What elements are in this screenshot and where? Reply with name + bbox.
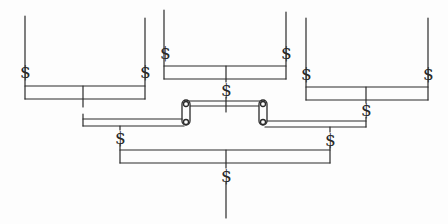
top-left-bracket: $ $ <box>20 16 151 107</box>
scroll-left-icon <box>182 100 190 125</box>
mid-left-bracket: $ <box>83 114 184 163</box>
mid-right-bracket: $ <box>265 117 366 163</box>
top-right-bracket: $ $ $ <box>301 18 434 120</box>
root-bracket: $ <box>120 150 330 218</box>
dollar-sign-icon: $ <box>423 64 434 84</box>
dollar-sign-icon: $ <box>301 64 312 84</box>
scroll-right-icon <box>259 100 267 125</box>
top-center-bracket: $ $ $ <box>160 10 292 112</box>
dollar-sign-icon: $ <box>160 43 171 63</box>
bracket-diagram: $ $ $ $ $ $ $ $ <box>0 0 448 224</box>
dollar-sign-icon: $ <box>140 62 151 82</box>
scroll-bridge <box>182 100 267 125</box>
diagram-svg: $ $ $ $ $ $ $ $ <box>0 0 448 224</box>
dollar-sign-icon: $ <box>281 43 292 63</box>
dollar-sign-icon: $ <box>20 62 31 82</box>
